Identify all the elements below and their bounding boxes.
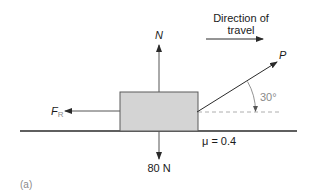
direction-label-line2: travel [228,24,255,36]
friction-label-subscript: R [58,110,64,119]
panel-label: (a) [20,179,32,190]
pull-force-arrow [197,62,277,112]
friction-label: FR [51,105,64,119]
friction-coefficient-label: μ = 0.4 [202,135,236,147]
angle-label: 30° [260,91,277,103]
direction-label-line1: Direction of [213,12,270,24]
weight-label: 80 N [147,162,170,174]
angle-arc [248,82,256,112]
normal-force-label: N [155,29,163,41]
free-body-diagram: Direction of travel N 80 N FR P 30° μ = … [0,0,314,193]
pull-force-label: P [279,49,287,61]
block [120,92,198,131]
